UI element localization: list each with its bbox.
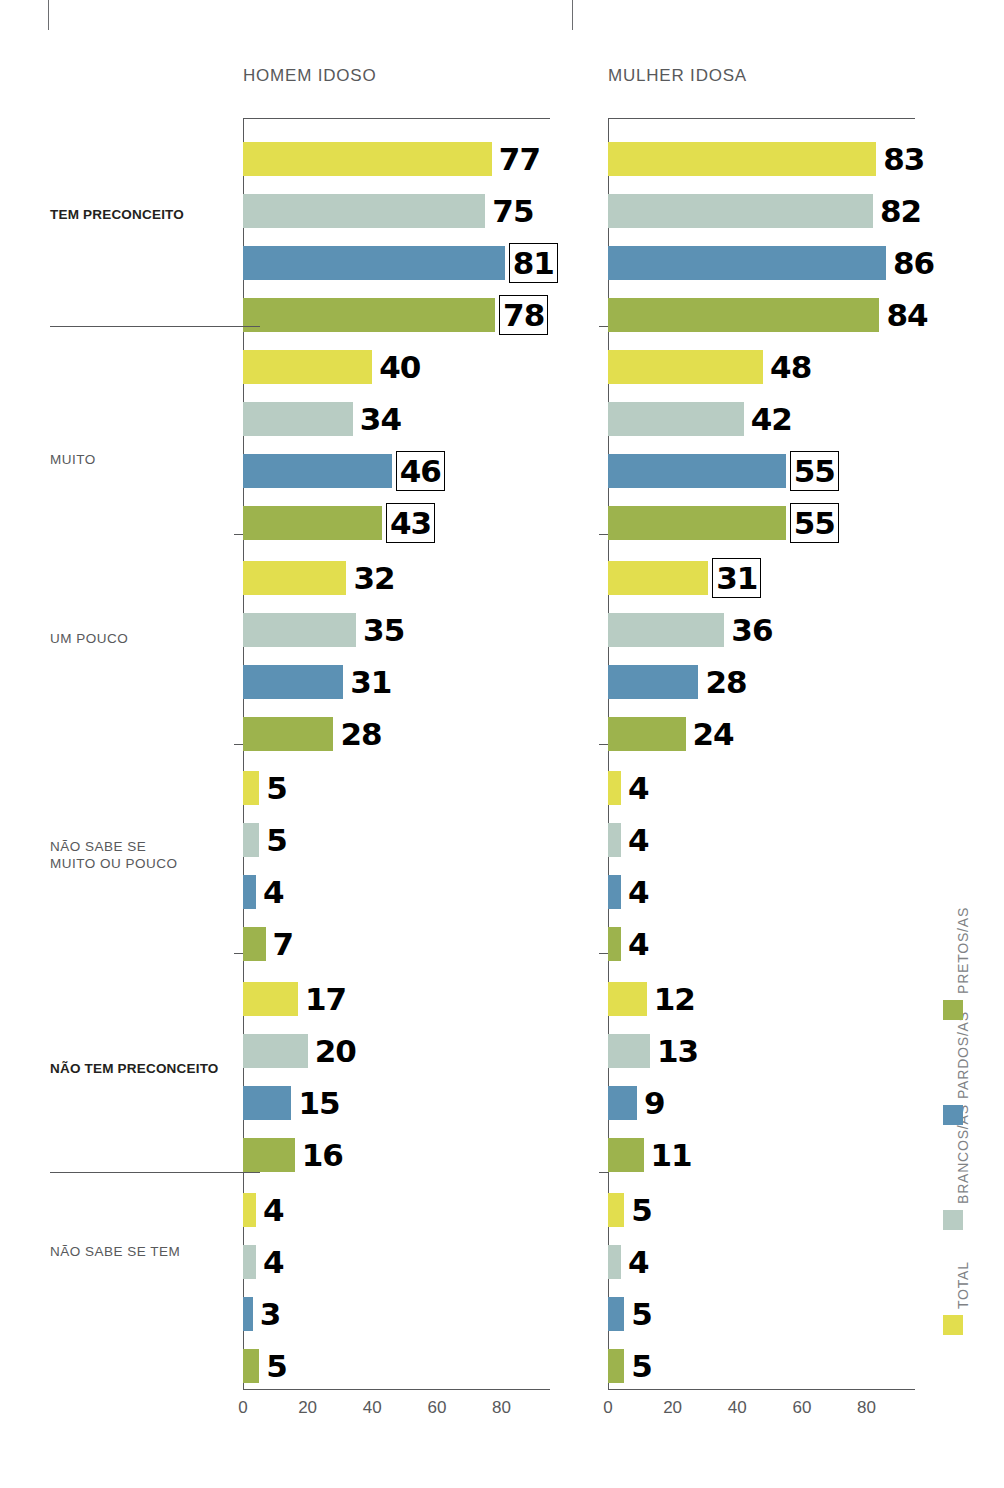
legend-label-pretos-as: PRETOS/AS	[955, 907, 971, 994]
axis-tick-1-1	[599, 534, 608, 535]
bar-value-label: 40	[376, 350, 423, 384]
bar-value-label: 55	[790, 451, 839, 491]
bar-value-label: 4	[260, 875, 287, 909]
bar-value-label: 16	[299, 1138, 346, 1172]
bar-mulher-idosa-pardos-as-0	[608, 246, 886, 280]
bar-value-label: 20	[312, 1034, 359, 1068]
chart-panel-mulher-idosa: 838286844842555531362824444412139115455	[608, 118, 915, 1390]
panel-title-mulher-idosa: MULHER IDOSA	[608, 66, 747, 86]
bar-value-label: 4	[625, 927, 652, 961]
bar-value-label: 43	[386, 503, 435, 543]
bar-homem-idoso-brancos-as-0	[243, 194, 485, 228]
bar-value-label: 31	[347, 665, 394, 699]
axis-tick-1-2	[599, 744, 608, 745]
group-separator-1	[50, 1172, 260, 1173]
category-label-0: TEM PRECONCEITO	[50, 206, 184, 223]
bar-value-label: 78	[499, 295, 548, 335]
axis-tick-0-1	[234, 534, 243, 535]
bar-value-label: 35	[360, 613, 407, 647]
bar-homem-idoso-pardos-as-4	[243, 1086, 291, 1120]
legend-label-total: TOTAL	[955, 1261, 971, 1309]
panel-bottom-rule	[243, 1389, 550, 1390]
bar-mulher-idosa-pardos-as-5	[608, 1297, 624, 1331]
x-tick-label-0-0: 0	[238, 1398, 247, 1418]
bar-mulher-idosa-brancos-as-3	[608, 823, 621, 857]
bar-value-label: 31	[712, 558, 761, 598]
x-tick-label-1-2: 40	[728, 1398, 747, 1418]
axis-tick-1-0	[599, 326, 608, 327]
bar-homem-idoso-brancos-as-4	[243, 1034, 308, 1068]
bar-value-label: 34	[357, 402, 404, 436]
category-label-4: NÃO TEM PRECONCEITO	[50, 1060, 219, 1077]
category-label-3: NÃO SABE SE MUITO OU POUCO	[50, 838, 178, 872]
bar-value-label: 4	[260, 1245, 287, 1279]
bar-homem-idoso-brancos-as-3	[243, 823, 259, 857]
bar-value-label: 4	[625, 771, 652, 805]
x-tick-label-1-4: 80	[857, 1398, 876, 1418]
bar-homem-idoso-pardos-as-1	[243, 454, 392, 488]
bar-homem-idoso-pretos-as-0	[243, 298, 495, 332]
bar-mulher-idosa-brancos-as-0	[608, 194, 873, 228]
bar-homem-idoso-total-3	[243, 771, 259, 805]
legend-swatch-pretos-as	[943, 1000, 963, 1020]
legend-label-pardos-as: PARDOS/AS	[955, 1011, 971, 1099]
axis-tick-0-3	[234, 953, 243, 954]
bar-value-label: 55	[790, 503, 839, 543]
bar-value-label: 28	[702, 665, 749, 699]
bar-value-label: 5	[628, 1193, 655, 1227]
bar-value-label: 7	[270, 927, 297, 961]
bar-value-label: 11	[648, 1138, 695, 1172]
bar-value-label: 42	[748, 402, 795, 436]
bar-homem-idoso-pretos-as-1	[243, 506, 382, 540]
bar-homem-idoso-pardos-as-3	[243, 875, 256, 909]
bar-homem-idoso-total-1	[243, 350, 372, 384]
bar-value-label: 28	[337, 717, 384, 751]
bar-mulher-idosa-brancos-as-1	[608, 402, 744, 436]
bar-value-label: 5	[628, 1349, 655, 1383]
bar-mulher-idosa-total-4	[608, 982, 647, 1016]
bar-value-label: 3	[257, 1297, 284, 1331]
bar-value-label: 17	[302, 982, 349, 1016]
bar-homem-idoso-pardos-as-0	[243, 246, 505, 280]
x-tick-label-0-2: 40	[363, 1398, 382, 1418]
bar-mulher-idosa-total-3	[608, 771, 621, 805]
bar-mulher-idosa-pardos-as-1	[608, 454, 786, 488]
bar-homem-idoso-total-4	[243, 982, 298, 1016]
bar-value-label: 84	[883, 298, 930, 332]
chart-panel-homem-idoso: 7775817840344643323531285547172015164435	[243, 118, 550, 1390]
bar-value-label: 48	[767, 350, 814, 384]
bar-homem-idoso-pardos-as-5	[243, 1297, 253, 1331]
bar-homem-idoso-total-5	[243, 1193, 256, 1227]
axis-tick-0-0	[234, 326, 243, 327]
bar-value-label: 4	[625, 875, 652, 909]
category-label-2: UM POUCO	[50, 630, 128, 647]
category-label-5: NÃO SABE SE TEM	[50, 1243, 180, 1260]
bar-mulher-idosa-brancos-as-4	[608, 1034, 650, 1068]
bar-mulher-idosa-brancos-as-2	[608, 613, 724, 647]
category-label-1: MUITO	[50, 451, 96, 468]
bar-homem-idoso-total-2	[243, 561, 346, 595]
axis-tick-0-4	[234, 1172, 243, 1173]
bar-value-label: 5	[263, 823, 290, 857]
bar-mulher-idosa-brancos-as-5	[608, 1245, 621, 1279]
bar-mulher-idosa-total-2	[608, 561, 708, 595]
axis-tick-1-4	[599, 1172, 608, 1173]
panel-top-rule	[243, 118, 550, 119]
bar-value-label: 75	[489, 194, 536, 228]
bar-homem-idoso-total-0	[243, 142, 492, 176]
bar-mulher-idosa-pretos-as-2	[608, 717, 686, 751]
bar-mulher-idosa-pardos-as-4	[608, 1086, 637, 1120]
panel-top-rule	[608, 118, 915, 119]
x-tick-label-0-4: 80	[492, 1398, 511, 1418]
bar-mulher-idosa-pretos-as-1	[608, 506, 786, 540]
axis-tick-1-3	[599, 953, 608, 954]
bar-mulher-idosa-pardos-as-2	[608, 665, 698, 699]
bar-value-label: 5	[263, 1349, 290, 1383]
legend-swatch-pardos-as	[943, 1105, 963, 1125]
bar-value-label: 13	[654, 1034, 701, 1068]
x-tick-label-1-0: 0	[603, 1398, 612, 1418]
crop-mark-right	[572, 0, 573, 30]
bar-homem-idoso-pretos-as-5	[243, 1349, 259, 1383]
legend-swatch-brancos-as	[943, 1210, 963, 1230]
axis-tick-0-2	[234, 744, 243, 745]
